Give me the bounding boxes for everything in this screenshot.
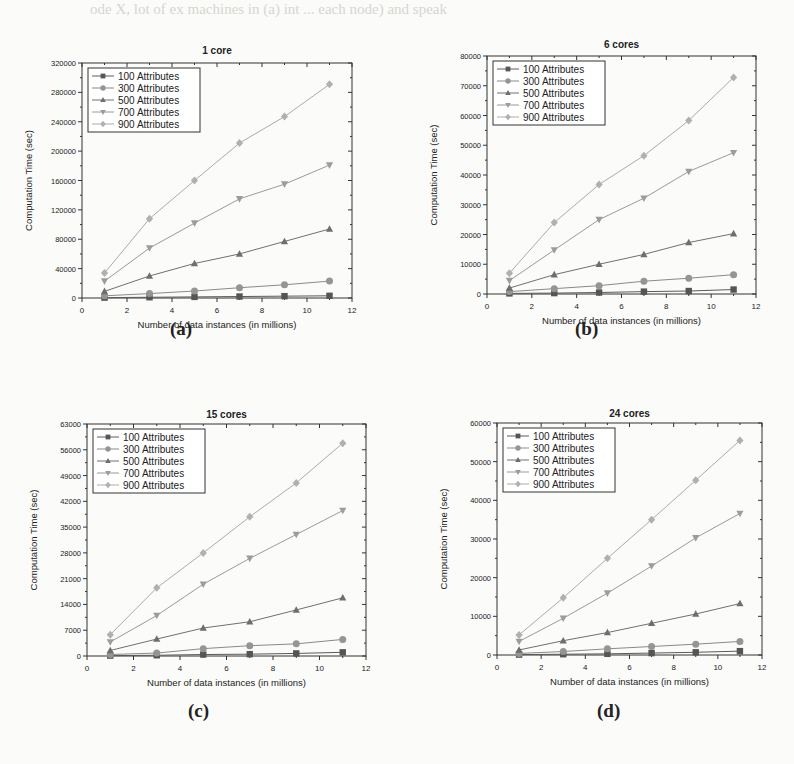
x-tick-label: 2: [539, 663, 544, 672]
triangle-up-marker-icon: [730, 230, 737, 237]
y-tick-label: 160000: [51, 177, 76, 186]
triangle-down-marker-icon: [146, 245, 153, 252]
x-tick-label: 0: [80, 306, 85, 315]
triangle-up-marker-icon: [736, 600, 743, 607]
series-line-700: [519, 513, 740, 641]
x-tick-label: 10: [315, 664, 324, 673]
chart-title: 24 cores: [609, 408, 650, 419]
legend-label: 900 Attributes: [523, 112, 584, 123]
legend-label: 700 Attributes: [118, 107, 179, 118]
square-marker-icon: [693, 649, 699, 655]
chart-title: 6 cores: [604, 39, 639, 50]
x-tick-label: 6: [627, 663, 632, 672]
circle-marker-icon: [326, 278, 333, 285]
legend-label: 300 Attributes: [523, 76, 584, 87]
y-tick-label: 35000: [60, 523, 81, 532]
y-tick-label: 40000: [55, 265, 76, 274]
legend: 100 Attributes300 Attributes500 Attribut…: [503, 428, 615, 492]
triangle-down-marker-icon: [551, 247, 558, 254]
triangle-down-marker-icon: [293, 532, 300, 539]
x-tick-label: 12: [758, 663, 767, 672]
legend-label: 500 Attributes: [523, 88, 584, 99]
triangle-down-marker-icon: [107, 639, 114, 646]
circle-marker-icon: [505, 78, 510, 83]
y-tick-label: 10000: [470, 612, 491, 621]
y-tick-label: 0: [72, 294, 76, 303]
y-tick-label: 80000: [460, 52, 481, 61]
series-line-100: [110, 652, 343, 655]
legend-label: 900 Attributes: [118, 119, 179, 130]
triangle-down-marker-icon: [506, 278, 513, 285]
chart-panel-d: 24 cores024681012Number of data instance…: [438, 408, 767, 687]
subfigure-caption-a: (a): [170, 318, 192, 340]
square-marker-icon: [648, 650, 654, 656]
series-line-700: [509, 153, 733, 281]
square-marker-icon: [101, 74, 106, 79]
y-tick-label: 63000: [60, 420, 81, 429]
y-tick-label: 28000: [60, 549, 81, 558]
triangle-down-marker-icon: [736, 511, 743, 518]
triangle-down-marker-icon: [685, 169, 692, 176]
x-tick-label: 2: [131, 664, 136, 673]
square-marker-icon: [730, 286, 736, 292]
square-marker-icon: [516, 434, 521, 439]
y-tick-label: 60000: [470, 419, 491, 428]
legend-label: 700 Attributes: [523, 100, 584, 111]
y-tick-label: 30000: [460, 201, 481, 210]
chart-title: 15 cores: [206, 409, 247, 420]
legend-label: 700 Attributes: [533, 467, 594, 478]
y-tick-label: 20000: [460, 231, 481, 240]
triangle-down-marker-icon: [326, 162, 333, 169]
subfigure-caption-b: (b): [575, 318, 598, 340]
x-tick-label: 10: [303, 306, 312, 315]
y-tick-label: 21000: [60, 575, 81, 584]
circle-marker-icon: [105, 446, 110, 451]
triangle-down-marker-icon: [595, 217, 602, 224]
circle-marker-icon: [648, 643, 655, 650]
y-tick-label: 0: [477, 290, 481, 299]
diamond-marker-icon: [515, 631, 522, 639]
circle-marker-icon: [281, 281, 288, 288]
triangle-down-marker-icon: [191, 220, 198, 227]
triangle-up-marker-icon: [326, 225, 333, 232]
square-marker-icon: [641, 288, 647, 294]
circle-marker-icon: [293, 640, 300, 647]
series-line-500: [105, 229, 330, 291]
diamond-marker-icon: [246, 513, 253, 521]
series-line-700: [110, 511, 343, 642]
chart-panel-a: 1 core024681012Number of data instances …: [23, 45, 357, 330]
circle-marker-icon: [200, 645, 207, 652]
circle-marker-icon: [236, 284, 243, 291]
legend-label: 500 Attributes: [123, 456, 184, 467]
y-tick-label: 30000: [470, 535, 491, 544]
x-tick-label: 10: [707, 302, 716, 311]
y-tick-label: 14000: [60, 600, 81, 609]
x-tick-label: 4: [583, 663, 588, 672]
triangle-down-marker-icon: [692, 535, 699, 542]
x-tick-label: 12: [362, 664, 371, 673]
y-tick-label: 120000: [51, 206, 76, 215]
square-marker-icon: [191, 294, 197, 300]
circle-marker-icon: [153, 650, 160, 657]
circle-marker-icon: [640, 278, 647, 285]
circle-marker-icon: [339, 636, 346, 643]
triangle-down-marker-icon: [648, 563, 655, 570]
diamond-marker-icon: [640, 152, 647, 160]
x-tick-label: 4: [178, 664, 183, 673]
legend-label: 300 Attributes: [123, 444, 184, 455]
x-tick-label: 8: [671, 663, 676, 672]
legend: 100 Attributes300 Attributes500 Attribut…: [493, 61, 605, 125]
y-tick-label: 0: [77, 652, 81, 661]
legend-label: 100 Attributes: [123, 432, 184, 443]
y-tick-label: 200000: [51, 147, 76, 156]
circle-marker-icon: [604, 645, 611, 652]
triangle-down-marker-icon: [153, 613, 160, 620]
circle-marker-icon: [551, 285, 558, 292]
circle-marker-icon: [736, 638, 743, 645]
y-axis-label: Computation Time (sec): [428, 125, 439, 226]
series-line-700: [105, 165, 330, 281]
x-tick-label: 4: [170, 306, 175, 315]
x-tick-label: 12: [348, 306, 357, 315]
triangle-down-marker-icon: [560, 615, 567, 622]
diamond-marker-icon: [191, 177, 198, 185]
